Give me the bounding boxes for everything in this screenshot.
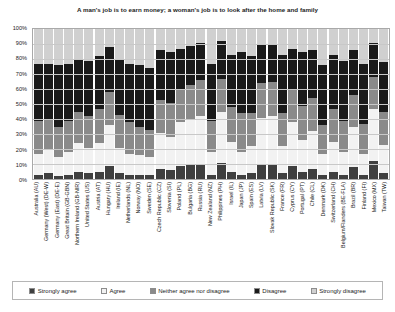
- bar-segment: [298, 29, 307, 52]
- bar-column[interactable]: [308, 29, 318, 179]
- bar-column[interactable]: [145, 29, 155, 179]
- bar-column[interactable]: [53, 29, 63, 179]
- x-axis-tick: Spain (ES): [247, 181, 257, 273]
- bar-column[interactable]: [216, 29, 226, 179]
- bar-segment: [74, 143, 83, 172]
- bar-column[interactable]: [226, 29, 236, 179]
- bar-column[interactable]: [379, 29, 389, 179]
- bar-column[interactable]: [94, 29, 104, 179]
- x-axis-tick-label: Northern Ireland (GB-NIR): [75, 182, 81, 245]
- bar-column[interactable]: [369, 29, 379, 179]
- bar-segment: [186, 46, 195, 85]
- bar-segment: [329, 172, 338, 180]
- bar-series-group: [33, 29, 389, 179]
- bar-segment: [125, 29, 134, 64]
- legend-item[interactable]: Agree: [101, 288, 126, 294]
- bar-column[interactable]: [64, 29, 74, 179]
- bar-segment: [74, 59, 83, 112]
- legend-item[interactable]: Strongly agree: [29, 288, 77, 294]
- y-axis-tick-label: 50%: [16, 101, 27, 107]
- bar-column[interactable]: [74, 29, 84, 179]
- bar-segment: [166, 103, 175, 138]
- bar-column[interactable]: [247, 29, 257, 179]
- bar-column[interactable]: [33, 29, 43, 179]
- bar-column[interactable]: [155, 29, 165, 179]
- bar-column[interactable]: [206, 29, 216, 179]
- x-axis-tick-label: Latvia (LV): [259, 182, 265, 208]
- x-axis-tick: Bulgaria (BG): [186, 181, 196, 273]
- bar-column[interactable]: [196, 29, 206, 179]
- bar-column[interactable]: [318, 29, 328, 179]
- bar-segment: [318, 125, 327, 154]
- bar-segment: [288, 49, 297, 90]
- bar-column[interactable]: [125, 29, 135, 179]
- legend-item[interactable]: Disagree: [254, 288, 287, 294]
- x-axis-tick-label: Chile (CL): [311, 182, 317, 206]
- legend-item-label: Strongly disagree: [319, 288, 366, 294]
- bar-segment: [308, 98, 317, 131]
- x-axis-tick: Northern Ireland (GB-NIR): [73, 181, 83, 273]
- x-axis-tick: Sweden (SE): [145, 181, 155, 273]
- page-title: A man's job is to earn money; a woman's …: [0, 6, 395, 14]
- bar-column[interactable]: [287, 29, 297, 179]
- bar-column[interactable]: [338, 29, 348, 179]
- x-axis-tick: Cyprus (CY): [288, 181, 298, 273]
- x-axis-tick: Slovak Republic (SK): [267, 181, 277, 273]
- x-axis-tick: Germany (West) (DE-W): [42, 181, 52, 273]
- x-axis-tick: Philippines (PH): [216, 181, 226, 273]
- bar-segment: [64, 175, 73, 180]
- bar-segment: [227, 142, 236, 172]
- bar-segment: [318, 154, 327, 175]
- legend-item[interactable]: Strongly disagree: [311, 288, 366, 294]
- bar-segment: [329, 142, 338, 172]
- bar-segment: [135, 127, 144, 156]
- bar-column[interactable]: [267, 29, 277, 179]
- bar-column[interactable]: [236, 29, 246, 179]
- y-axis-tick-label: 100%: [13, 25, 27, 31]
- x-axis-tick: Portugal (PT): [298, 181, 308, 273]
- bar-column[interactable]: [186, 29, 196, 179]
- bar-segment: [186, 85, 195, 120]
- bar-segment: [217, 79, 226, 112]
- x-axis-tick-label: Belgium/Flanders (BE-FLA): [341, 182, 347, 248]
- bar-column[interactable]: [297, 29, 307, 179]
- x-axis-tick: Mexico (MX): [370, 181, 380, 273]
- bar-segment: [166, 52, 175, 103]
- y-axis-tick-label: 70%: [16, 71, 27, 77]
- bar-segment: [166, 29, 175, 52]
- x-axis-tick: Poland (PL): [175, 181, 185, 273]
- bar-column[interactable]: [43, 29, 53, 179]
- bar-segment: [379, 62, 388, 112]
- bar-segment: [54, 176, 63, 179]
- x-axis-tick: France (FR): [278, 181, 288, 273]
- bar-segment: [308, 131, 317, 169]
- bar-segment: [217, 41, 226, 79]
- bar-column[interactable]: [359, 29, 369, 179]
- x-axis-tick-label: Philippines (PH): [219, 182, 225, 221]
- bar-column[interactable]: [104, 29, 114, 179]
- bar-segment: [278, 113, 287, 146]
- bar-segment: [95, 143, 104, 172]
- x-axis-tick: Germany (East) (DE-E): [52, 181, 62, 273]
- bar-column[interactable]: [165, 29, 175, 179]
- bar-segment: [176, 29, 185, 49]
- bar-segment: [369, 161, 378, 179]
- bar-segment: [207, 152, 216, 175]
- bar-column[interactable]: [348, 29, 358, 179]
- bar-segment: [156, 133, 165, 169]
- bar-segment: [288, 29, 297, 49]
- x-axis-tick: Taiwan (TW): [380, 181, 390, 273]
- bar-column[interactable]: [84, 29, 94, 179]
- bar-segment: [145, 175, 154, 180]
- bar-segment: [145, 29, 154, 68]
- bar-column[interactable]: [175, 29, 185, 179]
- bar-column[interactable]: [277, 29, 287, 179]
- bar-column[interactable]: [328, 29, 338, 179]
- legend-item[interactable]: Neither agree nor disagree: [150, 288, 230, 294]
- bar-segment: [84, 29, 93, 61]
- bar-column[interactable]: [114, 29, 124, 179]
- x-axis-tick-label: Poland (PL): [178, 182, 184, 210]
- bar-segment: [105, 125, 114, 166]
- bar-column[interactable]: [257, 29, 267, 179]
- bar-column[interactable]: [135, 29, 145, 179]
